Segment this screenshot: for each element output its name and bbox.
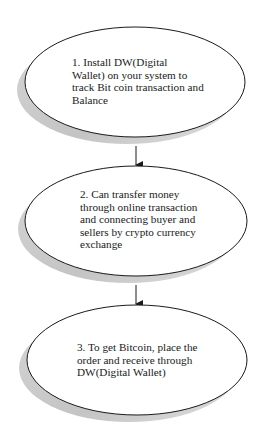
node-label-step1: 1. Install DW(Digital Wallet) on your sy… <box>72 56 204 106</box>
node-label-step2: 2. Can transfer money through online tra… <box>80 188 197 251</box>
node-label-step3: 3. To get Bitcoin, place the order and r… <box>77 341 198 379</box>
flowchart-diagram: 1. Install DW(Digital Wallet) on your sy… <box>0 0 261 439</box>
